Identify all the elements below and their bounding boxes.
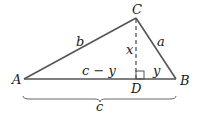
vertex-B: B <box>179 73 190 88</box>
triangle-diagram: A B C D b a x c − y y c <box>0 0 197 115</box>
vertex-C: C <box>132 2 142 17</box>
brace-label: c <box>96 99 104 114</box>
side-a-label: a <box>157 34 165 49</box>
left-base-label: c − y <box>82 63 116 78</box>
vertex-D: D <box>130 81 142 96</box>
vertex-A: A <box>11 72 21 87</box>
altitude-label: x <box>126 42 134 57</box>
right-base-label: y <box>152 63 161 78</box>
side-b-label: b <box>76 34 84 49</box>
right-angle-marker <box>136 71 144 79</box>
